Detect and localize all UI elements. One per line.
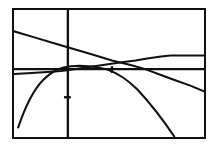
graph-screenshot (0, 0, 217, 147)
plot-canvas (14, 10, 204, 137)
plot-frame (12, 8, 206, 139)
downward-parabola-curve (18, 66, 175, 137)
descending-line-curve (14, 31, 204, 91)
